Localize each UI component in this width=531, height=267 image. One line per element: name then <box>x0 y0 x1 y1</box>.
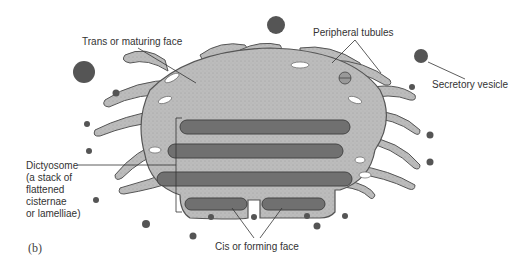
panel-label: (b) <box>28 241 42 256</box>
golgi-diagram <box>0 0 531 267</box>
label-trans-face: Trans or maturing face <box>82 36 182 48</box>
label-dictyosome: Dictyosome (a stack of flattened cistern… <box>26 160 80 220</box>
label-cis-face: Cis or forming face <box>215 241 299 253</box>
label-secretory-vesicle: Secretory vesicle <box>432 79 508 91</box>
label-peripheral-tubules: Peripheral tubules <box>313 27 394 39</box>
